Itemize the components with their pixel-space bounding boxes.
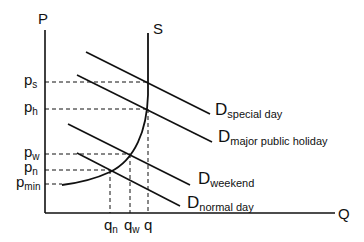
quantity-label-n: qn bbox=[104, 216, 118, 235]
price-label-s: ps bbox=[24, 71, 37, 90]
demand-label-normal-day: Dnormal day bbox=[187, 193, 254, 213]
y-axis-label: P bbox=[38, 10, 48, 27]
demand-label-major-public-holiday: Dmajor public holiday bbox=[218, 127, 328, 147]
x-axis-label: Q bbox=[338, 205, 350, 222]
price-guides bbox=[45, 82, 148, 184]
demand-label-special-day: Dspecial day bbox=[215, 100, 283, 120]
price-label-h: ph bbox=[24, 98, 38, 117]
demand-label-weekend: Dweekend bbox=[198, 169, 254, 189]
demand-weekend bbox=[68, 124, 190, 185]
quantity-label-w: qw bbox=[124, 216, 140, 235]
quantity-label-q: q bbox=[144, 216, 152, 233]
supply-label: S bbox=[153, 20, 163, 37]
supply-demand-diagram: P Q S ps ph pw pn pmin qn qw q Dspecial … bbox=[0, 0, 364, 242]
